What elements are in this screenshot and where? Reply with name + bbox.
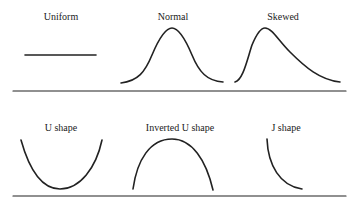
label-u-shape: U shape	[45, 122, 78, 133]
normal-curve	[121, 28, 223, 83]
label-normal: Normal	[158, 11, 189, 22]
inverted-u-curve	[133, 139, 213, 190]
shapes-svg	[0, 0, 360, 209]
label-inverted-u-shape: Inverted U shape	[146, 122, 214, 133]
distribution-shapes-diagram: Uniform Normal Skewed U shape Inverted U…	[0, 0, 360, 209]
label-uniform: Uniform	[44, 11, 78, 22]
label-j-shape: J shape	[271, 122, 300, 133]
skewed-curve	[235, 28, 340, 82]
j-shape-curve	[267, 139, 302, 189]
u-shape-curve	[21, 140, 102, 189]
label-skewed: Skewed	[267, 11, 299, 22]
